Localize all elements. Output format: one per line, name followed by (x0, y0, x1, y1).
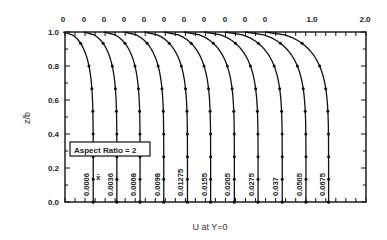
data-point (209, 110, 212, 113)
y-tick-label: 0.2 (48, 164, 60, 173)
curve-label: 0.0155 (200, 173, 209, 196)
data-point (212, 42, 215, 45)
data-point (304, 133, 307, 136)
data-point (281, 178, 284, 181)
data-point (123, 42, 126, 45)
top-tick-label: 0 (182, 15, 187, 24)
data-point (279, 42, 282, 45)
top-tick-label: 2.0 (359, 15, 371, 24)
legend-symbol: x̄ (96, 173, 101, 182)
data-point (162, 200, 165, 203)
y-tick-label: 1.0 (48, 28, 60, 37)
y-axis-title: z/b (22, 112, 32, 124)
top-tick-label: 0 (263, 15, 268, 24)
data-point (102, 42, 105, 45)
y-tick-label: 0.8 (48, 62, 60, 71)
curve-label: 0.0098 (153, 173, 162, 196)
data-point (256, 110, 259, 113)
data-point (115, 178, 118, 181)
data-point (209, 133, 212, 136)
top-tick-label: 0 (202, 15, 207, 24)
curve-labels: 0.00060.00360.00680.00980.012750.01550.0… (82, 169, 326, 196)
top-tick-label: 1.0 (306, 15, 318, 24)
data-point (233, 178, 236, 181)
data-point (162, 155, 165, 158)
data-point (115, 200, 118, 203)
top-tick-label: 0 (61, 15, 66, 24)
data-point (256, 200, 259, 203)
legend-box: Aspect Ratio = 2 (70, 142, 150, 156)
data-point (92, 178, 95, 181)
top-tick-label: 0 (223, 15, 228, 24)
data-point (114, 87, 117, 90)
data-point (186, 200, 189, 203)
data-point (180, 65, 183, 68)
y-tick-label: 0.6 (48, 96, 60, 105)
data-point (281, 133, 284, 136)
top-tick-label: 0 (122, 15, 127, 24)
data-point (87, 65, 90, 68)
x-axis-title: U at Y=0 (192, 222, 227, 232)
data-point (111, 65, 114, 68)
data-point (327, 133, 330, 136)
data-point (184, 87, 187, 90)
data-point (115, 133, 118, 136)
curve-label: 0.0006 (82, 173, 91, 196)
top-tick-label: 0 (142, 15, 147, 24)
aspect-ratio-label: Aspect Ratio = 2 (74, 146, 137, 155)
data-point (327, 200, 330, 203)
data-point (203, 65, 206, 68)
data-point (186, 133, 189, 136)
data-point (280, 110, 283, 113)
data-point (162, 110, 165, 113)
curve-label: 0.01275 (176, 169, 185, 196)
data-point (296, 65, 299, 68)
data-point (79, 42, 82, 45)
data-point (234, 42, 237, 45)
data-point (249, 65, 252, 68)
data-point (207, 87, 210, 90)
data-point (139, 178, 142, 181)
curve-label: 0.0675 (318, 173, 327, 196)
data-point (278, 87, 281, 90)
data-point (231, 87, 234, 90)
data-point (304, 110, 307, 113)
data-point (90, 87, 93, 90)
velocity-profile-chart: 0.00.20.40.60.81.0 000000000001.02.0 0.0… (0, 0, 387, 240)
curve-label: 0.0036 (106, 173, 115, 196)
data-point (185, 110, 188, 113)
data-point (254, 87, 257, 90)
data-point (92, 200, 95, 203)
data-point (327, 155, 330, 158)
data-point (209, 155, 212, 158)
data-point (233, 200, 236, 203)
data-point (273, 65, 276, 68)
data-point (168, 42, 171, 45)
data-point (318, 65, 321, 68)
data-point (233, 155, 236, 158)
data-point (226, 65, 229, 68)
top-tick-label: 0 (162, 15, 167, 24)
data-point (186, 155, 189, 158)
data-point (281, 200, 284, 203)
data-point (281, 155, 284, 158)
data-point (138, 133, 141, 136)
data-point (326, 110, 329, 113)
data-point (138, 200, 141, 203)
data-point (137, 87, 140, 90)
data-point (232, 110, 235, 113)
data-point (257, 42, 260, 45)
data-point (138, 110, 141, 113)
y-tick-label: 0.4 (48, 130, 60, 139)
data-point (327, 178, 330, 181)
data-point (304, 200, 307, 203)
data-point (301, 42, 304, 45)
data-point (190, 42, 193, 45)
curve-label: 0.0205 (223, 173, 232, 196)
data-point (304, 178, 307, 181)
curve-label: 0.0505 (295, 173, 304, 196)
data-point (115, 110, 118, 113)
data-point (324, 87, 327, 90)
data-point (209, 200, 212, 203)
velocity-curves (63, 32, 330, 204)
